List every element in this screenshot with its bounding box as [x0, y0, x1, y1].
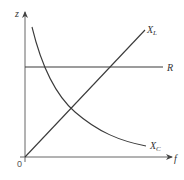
origin-label: 0: [17, 159, 22, 169]
x-axis-label: f: [174, 153, 178, 164]
capacitive-reactance-label: XC: [149, 140, 161, 153]
y-axis-label: z: [14, 8, 19, 19]
resistance-label: R: [166, 62, 173, 73]
inductive-reactance-label: XL: [146, 24, 157, 37]
inductive-reactance-line: [25, 30, 145, 157]
capacitive-reactance-curve: [32, 27, 146, 146]
impedance-frequency-diagram: z f 0 R XL XC: [0, 0, 184, 180]
